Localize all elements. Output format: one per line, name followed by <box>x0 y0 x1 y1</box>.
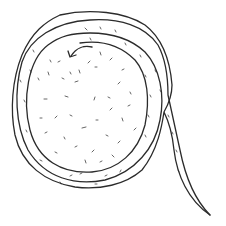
stipple-texture <box>20 27 179 184</box>
spiral-inner-line <box>17 20 210 215</box>
illustration-canvas: hand-drawn coiled ribbon spiral with tra… <box>0 0 226 226</box>
coil-drawing <box>0 0 226 226</box>
spiral-outer-line <box>12 12 210 215</box>
arrow-left-icon <box>68 46 92 57</box>
